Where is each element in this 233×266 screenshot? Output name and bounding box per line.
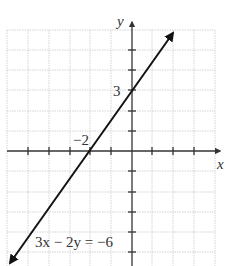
- equation-label: 3x − 2y = −6: [35, 234, 113, 250]
- x-axis-label: x: [216, 156, 224, 172]
- y-intercept-label: 3: [113, 83, 121, 99]
- coordinate-plane: y x 3 −2 3x − 2y = −6: [0, 0, 233, 266]
- y-axis: [128, 22, 136, 266]
- x-intercept-label: −2: [73, 132, 89, 148]
- y-axis-label: y: [115, 13, 124, 29]
- x-axis: [7, 147, 220, 155]
- graph-line: [10, 33, 173, 263]
